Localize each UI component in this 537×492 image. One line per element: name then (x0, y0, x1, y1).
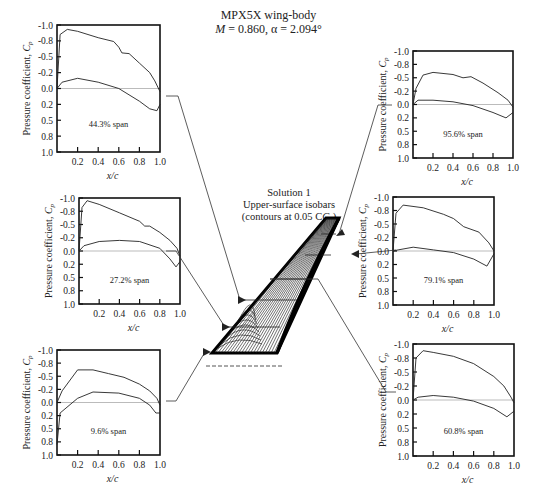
y-tick-label: -0.8 (38, 36, 53, 46)
span-label: 60.8% span (444, 426, 484, 436)
x-tick-label: 0.4 (427, 310, 439, 320)
x-tick-label: 1.0 (154, 460, 166, 470)
x-tick-label: 0.4 (447, 461, 459, 471)
y-axis-label: Pressure coefficient, Cp (21, 41, 34, 136)
x-axis-label: x/c (461, 474, 474, 485)
span-label: 9.6% span (91, 426, 127, 436)
y-tick-label: 0.8 (397, 438, 409, 448)
cp-plot: -1.0-0.8-0.5-0.20.00.20.50.81.00.20.40.6… (43, 194, 186, 334)
y-tick-label: 0.5 (397, 127, 409, 137)
cp-plot: -1.0-0.8-0.5-0.20.00.20.50.81.00.20.40.6… (377, 340, 520, 486)
y-tick-label: -0.2 (394, 382, 409, 392)
x-tick-label: 1.0 (174, 309, 186, 319)
x-tick-label: 0.2 (427, 163, 439, 173)
y-tick-label: 0.0 (41, 398, 53, 408)
y-tick-label: 0.5 (377, 274, 389, 284)
y-tick-label: 0.2 (41, 411, 53, 421)
arrowhead-icon (222, 323, 230, 331)
span-label: 27.2% span (110, 275, 150, 285)
cp-curve-lower-surface (79, 240, 180, 267)
y-axis-label: Pressure coefficient, Cp (43, 203, 56, 298)
x-tick-label: 0.6 (448, 310, 460, 320)
y-tick-label: -0.2 (394, 87, 409, 97)
y-tick-label: -0.8 (394, 60, 409, 70)
x-tick-label: 0.2 (93, 309, 105, 319)
x-tick-label: 1.0 (507, 163, 519, 173)
y-tick-label: 0.8 (63, 286, 75, 296)
y-tick-label: 1.0 (41, 451, 53, 461)
x-tick-label: 0.8 (133, 157, 145, 167)
y-tick-label: -0.8 (394, 354, 409, 364)
x-axis-label: x/c (106, 170, 119, 181)
y-tick-label: 1.0 (63, 300, 75, 310)
cp-plots: -1.0-0.8-0.5-0.20.00.20.50.81.00.20.40.6… (21, 21, 520, 486)
y-tick-label: 0.2 (41, 100, 53, 110)
y-tick-label: -0.2 (374, 233, 389, 243)
x-tick-label: 0.6 (134, 309, 146, 319)
x-tick-label: 0.2 (407, 310, 419, 320)
cp-curve-upper-surface (413, 72, 513, 107)
x-tick-label: 0.8 (487, 163, 499, 173)
x-tick-label: 0.6 (113, 157, 125, 167)
y-axis-label: Pressure coefficient, Cp (377, 57, 390, 152)
y-tick-label: -0.2 (60, 233, 75, 243)
y-tick-label: -0.8 (60, 207, 75, 217)
x-tick-label: 0.2 (72, 460, 84, 470)
y-tick-label: 1.0 (397, 154, 409, 164)
span-label: 79.1% span (424, 275, 464, 285)
x-tick-label: 0.8 (154, 309, 166, 319)
x-tick-label: 1.0 (508, 461, 520, 471)
x-tick-label: 0.8 (133, 460, 145, 470)
figure-canvas: Solution 1 Upper-surface isobars (contou… (0, 0, 537, 492)
y-tick-label: 0.8 (377, 287, 389, 297)
y-tick-label: 0.5 (397, 424, 409, 434)
y-tick-label: 1.0 (41, 148, 53, 158)
y-tick-label: -0.2 (38, 68, 53, 78)
cp-plot: -1.0-0.8-0.5-0.20.00.20.50.81.00.20.40.6… (21, 346, 166, 485)
x-tick-label: 1.0 (154, 157, 166, 167)
x-tick-label: 0.4 (92, 157, 104, 167)
arrowhead-icon (351, 250, 359, 258)
y-tick-label: 0.2 (397, 113, 409, 123)
y-tick-label: -0.2 (38, 385, 53, 395)
y-tick-label: -1.0 (38, 21, 53, 31)
y-tick-label: 0.0 (397, 100, 409, 110)
cp-curve-lower-surface (393, 247, 494, 266)
y-tick-label: 1.0 (377, 301, 389, 311)
y-tick-label: -0.5 (394, 73, 409, 83)
y-tick-label: -0.5 (38, 52, 53, 62)
arrowhead-icon (203, 348, 211, 356)
y-tick-label: 0.2 (63, 260, 75, 270)
y-tick-label: 0.8 (41, 132, 53, 142)
y-tick-label: -1.0 (374, 193, 389, 203)
y-tick-label: 0.0 (63, 247, 75, 257)
cp-curve-lower-surface (57, 78, 160, 110)
y-axis-label: Pressure coefficient, Cp (21, 355, 34, 450)
x-tick-label: 0.6 (467, 163, 479, 173)
cp-plot: -1.0-0.8-0.5-0.20.00.20.50.81.00.20.40.6… (357, 193, 500, 335)
cp-curve-lower-surface (57, 392, 160, 445)
cp-plot: -1.0-0.8-0.5-0.20.00.20.50.81.00.20.40.6… (377, 47, 519, 188)
y-tick-label: -0.5 (374, 220, 389, 230)
y-tick-label: -1.0 (394, 47, 409, 57)
cp-curve-upper-surface (79, 201, 180, 257)
y-tick-label: -1.0 (60, 194, 75, 204)
cp-curve-upper-surface (393, 205, 494, 251)
x-axis-label: x/c (106, 473, 119, 484)
cp-curve-lower-surface (413, 100, 513, 118)
y-tick-label: -1.0 (394, 340, 409, 350)
y-tick-label: 0.8 (41, 437, 53, 447)
solution-label: Solution 1 (267, 187, 310, 198)
y-tick-label: -0.8 (38, 359, 53, 369)
center-label: Solution 1 Upper-surface isobars (contou… (242, 187, 337, 224)
y-tick-label: -0.8 (374, 206, 389, 216)
x-tick-label: 0.4 (113, 309, 125, 319)
span-label: 95.6% span (443, 129, 483, 139)
y-tick-label: 0.5 (63, 273, 75, 283)
cp-curve-upper-surface (413, 351, 514, 403)
leader-9-6 (166, 352, 205, 401)
cp-curve-upper-surface (57, 370, 160, 405)
y-tick-label: -1.0 (38, 346, 53, 356)
y-tick-label: 0.5 (41, 424, 53, 434)
x-tick-label: 0.6 (113, 460, 125, 470)
